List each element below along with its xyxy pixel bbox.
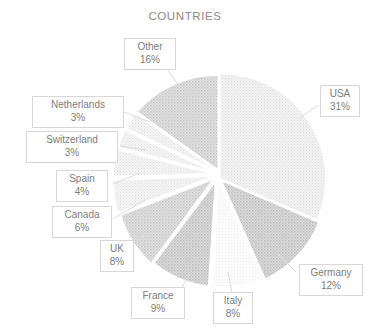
data-label-usa-name: USA <box>325 88 355 101</box>
data-label-uk-name: UK <box>105 243 129 256</box>
data-label-italy-name: Italy <box>218 295 248 308</box>
data-label-italy[interactable]: Italy 8% <box>213 292 253 324</box>
data-label-usa[interactable]: USA 31% <box>320 85 360 117</box>
data-label-netherlands[interactable]: Netherlands 3% <box>32 96 124 128</box>
pie-slices <box>113 73 326 287</box>
data-label-usa-value: 31% <box>325 101 355 114</box>
data-label-france-value: 9% <box>136 303 180 316</box>
data-label-uk-value: 8% <box>105 256 129 269</box>
data-label-canada-value: 6% <box>57 222 107 235</box>
data-label-netherlands-name: Netherlands <box>37 99 119 112</box>
data-label-switzerland-name: Switzerland <box>31 134 113 147</box>
data-label-spain[interactable]: Spain 4% <box>56 170 108 202</box>
data-label-italy-value: 8% <box>218 308 248 321</box>
data-label-switzerland[interactable]: Switzerland 3% <box>26 131 118 163</box>
data-label-other-name: Other <box>129 41 171 54</box>
data-label-uk[interactable]: UK 8% <box>100 240 134 272</box>
data-label-germany[interactable]: Germany 12% <box>299 264 363 296</box>
data-label-france[interactable]: France 9% <box>131 287 185 319</box>
data-label-switzerland-value: 3% <box>31 147 113 160</box>
data-label-other[interactable]: Other 16% <box>124 38 176 70</box>
data-label-france-name: France <box>136 290 180 303</box>
data-label-canada[interactable]: Canada 6% <box>52 206 112 238</box>
data-label-canada-name: Canada <box>57 209 107 222</box>
data-label-germany-name: Germany <box>304 267 358 280</box>
pie-chart-container: COUNTRIES <box>0 0 370 335</box>
data-label-netherlands-value: 3% <box>37 112 119 125</box>
data-label-spain-name: Spain <box>61 173 103 186</box>
data-label-germany-value: 12% <box>304 280 358 293</box>
data-label-spain-value: 4% <box>61 186 103 199</box>
data-label-other-value: 16% <box>129 54 171 67</box>
